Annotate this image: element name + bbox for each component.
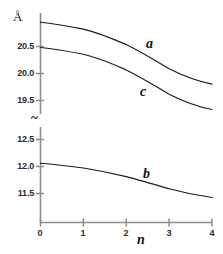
curve-c-line [41, 48, 213, 110]
curve-label-c: c [140, 84, 146, 100]
x-tick-label-1: 1 [75, 228, 91, 238]
chart-figure: Å ~ 20.5 20.0 19.5 12.5 12.0 11.5 0 1 2 … [0, 0, 223, 254]
x-tick-label-3: 3 [161, 228, 177, 238]
data-curves [41, 22, 213, 197]
x-tick-label-4: 4 [204, 228, 220, 238]
axis-break-symbol: ~ [31, 110, 38, 126]
y-tick-label-19-5: 19.5 [0, 95, 34, 105]
curve-label-b: b [143, 166, 150, 182]
x-tick-label-2: 2 [118, 228, 134, 238]
chart-canvas [0, 0, 223, 254]
curve-b-line [41, 163, 213, 197]
y-tick-label-12-5: 12.5 [0, 134, 34, 144]
x-axis-title: n [137, 232, 145, 248]
curve-a-line [41, 22, 213, 84]
y-tick-label-20-0: 20.0 [0, 68, 34, 78]
y-tick-label-12-0: 12.0 [0, 161, 34, 171]
y-tick-label-20-5: 20.5 [0, 41, 34, 51]
x-tick-label-0: 0 [32, 228, 48, 238]
curve-a [41, 22, 213, 84]
curve-label-a: a [146, 36, 153, 52]
y-axis-unit-label: Å [13, 9, 22, 25]
y-tick-label-11-5: 11.5 [0, 188, 34, 198]
